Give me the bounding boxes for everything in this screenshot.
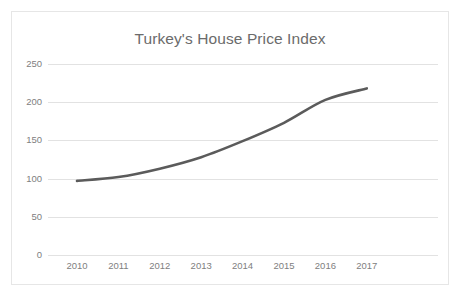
y-tick-label-150: 150 <box>12 135 42 145</box>
x-tick-label-2012: 2012 <box>140 261 180 271</box>
x-tick-label-2010: 2010 <box>57 261 97 271</box>
y-tick-label-250: 250 <box>12 59 42 69</box>
y-tick-label-200: 200 <box>12 97 42 107</box>
y-tick-label-50: 50 <box>12 212 42 222</box>
x-tick-label-2015: 2015 <box>264 261 304 271</box>
x-tick-label-2014: 2014 <box>223 261 263 271</box>
x-tick-label-2017: 2017 <box>347 261 387 271</box>
x-tick-label-2013: 2013 <box>181 261 221 271</box>
y-tick-label-0: 0 <box>12 250 42 260</box>
chart-title: Turkey's House Price Index <box>12 30 448 48</box>
y-tick-label-100: 100 <box>12 174 42 184</box>
x-tick-label-2011: 2011 <box>98 261 138 271</box>
chart-container: Turkey's House Price Index <box>11 11 449 285</box>
x-tick-label-2016: 2016 <box>305 261 345 271</box>
